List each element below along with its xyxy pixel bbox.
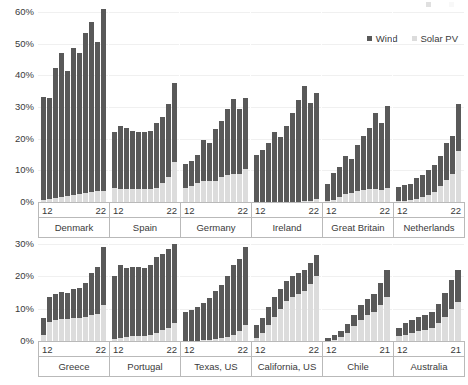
stacked-bar[interactable] [83,33,88,202]
stacked-bar[interactable] [409,320,415,341]
stacked-bar[interactable] [365,299,371,341]
stacked-bar[interactable] [172,83,177,202]
stacked-bar[interactable] [118,265,123,341]
stacked-bar[interactable] [367,128,372,202]
stacked-bar[interactable] [331,173,336,202]
stacked-bar[interactable] [408,184,413,202]
stacked-bar[interactable] [420,175,425,202]
stacked-bar[interactable] [429,312,435,341]
stacked-bar[interactable] [290,276,295,341]
stacked-bar[interactable] [278,289,283,341]
stacked-bar[interactable] [351,315,357,341]
stacked-bar[interactable] [89,22,94,202]
stacked-bar[interactable] [112,132,117,202]
stacked-bar[interactable] [101,9,106,202]
stacked-bar[interactable] [403,323,409,341]
stacked-bar[interactable] [272,297,277,341]
stacked-bar[interactable] [254,325,259,341]
stacked-bar[interactable] [243,247,248,341]
stacked-bar[interactable] [65,293,70,341]
stacked-bar[interactable] [349,159,354,202]
stacked-bar[interactable] [112,276,117,341]
stacked-bar[interactable] [438,156,443,202]
stacked-bar[interactable] [414,178,419,202]
stacked-bar[interactable] [345,324,351,341]
stacked-bar[interactable] [355,145,360,202]
stacked-bar[interactable] [378,283,384,341]
stacked-bar[interactable] [65,71,70,202]
stacked-bar[interactable] [53,68,58,202]
stacked-bar[interactable] [402,185,407,202]
stacked-bar[interactable] [189,161,194,202]
stacked-bar[interactable] [71,289,76,341]
stacked-bar[interactable] [343,156,348,202]
stacked-bar[interactable] [266,307,271,341]
stacked-bar[interactable] [59,53,64,202]
stacked-bar[interactable] [361,136,366,202]
stacked-bar[interactable] [302,270,307,341]
stacked-bar[interactable] [371,294,377,341]
stacked-bar[interactable] [142,132,147,202]
stacked-bar[interactable] [225,109,230,202]
stacked-bar[interactable] [456,104,461,202]
stacked-bar[interactable] [77,288,82,341]
stacked-bar[interactable] [358,305,364,341]
stacked-bar[interactable] [296,273,301,341]
stacked-bar[interactable] [314,255,319,341]
stacked-bar[interactable] [53,294,58,341]
stacked-bar[interactable] [432,165,437,202]
stacked-bar[interactable] [442,293,448,342]
stacked-bar[interactable] [101,247,106,341]
stacked-bar[interactable] [384,270,390,341]
stacked-bar[interactable] [450,136,455,203]
stacked-bar[interactable] [148,265,153,341]
stacked-bar[interactable] [195,155,200,203]
stacked-bar[interactable] [455,270,461,341]
stacked-bar[interactable] [396,328,402,341]
stacked-bar[interactable] [254,155,259,203]
stacked-bar[interactable] [154,257,159,341]
stacked-bar[interactable] [148,131,153,202]
stacked-bar[interactable] [290,113,295,202]
stacked-bar[interactable] [160,254,165,341]
stacked-bar[interactable] [183,312,188,341]
stacked-bar[interactable] [77,53,82,202]
stacked-bar[interactable] [130,267,135,341]
stacked-bar[interactable] [338,331,344,341]
stacked-bar[interactable] [385,106,390,202]
stacked-bar[interactable] [71,48,76,202]
stacked-bar[interactable] [59,292,64,341]
stacked-bar[interactable] [47,297,52,341]
stacked-bar[interactable] [89,273,94,341]
stacked-bar[interactable] [183,164,188,202]
stacked-bar[interactable] [166,104,171,202]
stacked-bar[interactable] [124,128,129,202]
stacked-bar[interactable] [41,318,46,341]
stacked-bar[interactable] [225,276,230,341]
stacked-bar[interactable] [207,143,212,202]
stacked-bar[interactable] [373,113,378,202]
stacked-bar[interactable] [95,42,100,202]
stacked-bar[interactable] [284,126,289,202]
stacked-bar[interactable] [272,132,277,202]
stacked-bar[interactable] [302,86,307,202]
stacked-bar[interactable] [296,100,301,202]
stacked-bar[interactable] [260,150,265,202]
stacked-bar[interactable] [160,117,165,203]
stacked-bar[interactable] [136,267,141,341]
stacked-bar[interactable] [213,291,218,341]
stacked-bar[interactable] [219,285,224,341]
stacked-bar[interactable] [325,184,330,202]
stacked-bar[interactable] [207,298,212,341]
stacked-bar[interactable] [308,263,313,341]
stacked-bar[interactable] [201,140,206,202]
stacked-bar[interactable] [195,307,200,341]
stacked-bar[interactable] [237,259,242,341]
stacked-bar[interactable] [308,103,313,202]
stacked-bar[interactable] [47,98,52,202]
stacked-bar[interactable] [260,318,265,341]
stacked-bar[interactable] [201,303,206,341]
stacked-bar[interactable] [219,121,224,202]
stacked-bar[interactable] [416,317,422,341]
stacked-bar[interactable] [266,143,271,202]
